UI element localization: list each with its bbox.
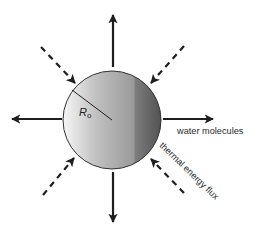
thermal-energy-flux-label: thermal energy flux xyxy=(158,140,221,202)
dashed-arrow-bottom-left-icon xyxy=(43,158,74,195)
radius-label-sub: o xyxy=(87,111,92,120)
evaporation-diagram: Ro water molecules thermal energy flux xyxy=(0,0,266,232)
water-molecules-label: water molecules xyxy=(176,126,244,136)
sphere: Ro xyxy=(63,71,161,169)
radius-label-main: R xyxy=(79,106,87,118)
dashed-arrow-top-right-icon xyxy=(151,46,184,83)
dashed-arrow-top-left-icon xyxy=(41,47,75,83)
